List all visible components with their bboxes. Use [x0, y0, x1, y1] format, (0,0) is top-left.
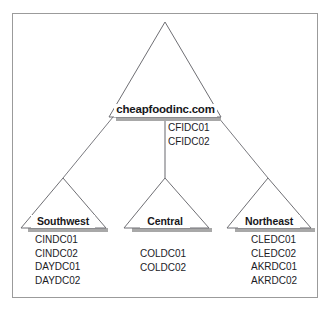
server-name: DAYDC02: [35, 274, 80, 288]
server-name: CINDC01: [35, 233, 80, 247]
server-name: AKRDC01: [251, 260, 297, 274]
server-name: CLEDC01: [251, 233, 297, 247]
server-name: DAYDC01: [35, 260, 80, 274]
server-name: CFIDC02: [168, 135, 210, 149]
site-label-northeast: Northeast: [238, 216, 300, 227]
server-list-southwest: CINDC01 CINDC02 DAYDC01 DAYDC02: [35, 233, 80, 287]
server-name: CFIDC01: [168, 121, 210, 135]
server-name: AKRDC02: [251, 274, 297, 288]
domain-hierarchy-diagram: cheapfoodinc.com Southwest Central North…: [0, 0, 331, 312]
server-list-central: COLDC01 COLDC02: [140, 247, 186, 274]
server-list-root: CFIDC01 CFIDC02: [168, 121, 210, 148]
server-name: COLDC02: [140, 261, 186, 275]
root-domain-label: cheapfoodinc.com: [114, 104, 217, 116]
server-name: CINDC02: [35, 247, 80, 261]
server-list-northeast: CLEDC01 CLEDC02 AKRDC01 AKRDC02: [251, 233, 297, 287]
site-label-central: Central: [140, 216, 190, 227]
site-label-southwest: Southwest: [31, 216, 95, 227]
server-name: COLDC01: [140, 247, 186, 261]
server-name: CLEDC02: [251, 247, 297, 261]
